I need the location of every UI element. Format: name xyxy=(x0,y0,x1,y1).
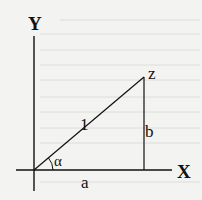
horizontal-side-label: a xyxy=(81,173,89,192)
vertical-side-label: b xyxy=(145,122,154,141)
diagram-canvas: Y X z 1 b a α xyxy=(0,0,202,200)
hypotenuse-label: 1 xyxy=(80,115,89,134)
point-z-label: z xyxy=(148,64,156,83)
right-triangle-diagram: Y X z 1 b a α xyxy=(0,0,202,200)
background-texture xyxy=(40,20,200,182)
x-axis-label: X xyxy=(177,161,191,182)
hypotenuse-segment xyxy=(34,77,144,170)
angle-arc xyxy=(49,158,54,170)
angle-label: α xyxy=(54,153,62,169)
y-axis-label: Y xyxy=(28,13,42,34)
